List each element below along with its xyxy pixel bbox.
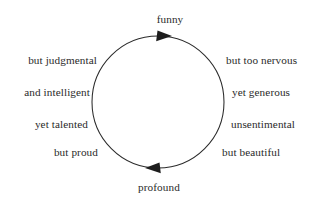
pole-label-top: funny: [157, 13, 184, 26]
top-arrowhead-icon: [156, 31, 172, 42]
pole-label-bottom: profound: [138, 181, 180, 194]
cycle-graphic: [0, 0, 324, 207]
cycle-circle: [92, 36, 224, 168]
left-label-3: yet talented: [35, 118, 88, 131]
cycle-diagram: funny profound but judgmental and intell…: [0, 0, 324, 207]
bottom-arrowhead-icon: [145, 163, 161, 174]
right-label-4: but beautiful: [222, 146, 280, 159]
left-label-4: but proud: [54, 146, 98, 159]
left-label-1: but judgmental: [28, 54, 97, 67]
left-label-2: and intelligent: [24, 86, 90, 99]
right-label-1: but too nervous: [226, 54, 297, 67]
right-label-2: yet generous: [232, 86, 290, 99]
right-label-3: unsentimental: [231, 118, 295, 131]
